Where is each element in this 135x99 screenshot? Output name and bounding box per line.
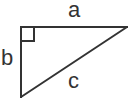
right-angle-marker xyxy=(21,27,34,41)
side-a-label: a xyxy=(68,0,80,21)
hypotenuse-c-label: c xyxy=(68,70,79,92)
side-b-label: b xyxy=(1,47,13,69)
